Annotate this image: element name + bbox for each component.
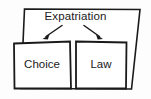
outer-container-label: Expatriation [0, 11, 151, 23]
left-box-label: Choice [14, 59, 70, 71]
right-box-label: Law [76, 59, 126, 71]
diagram-canvas: Expatriation Choice Law [0, 0, 151, 99]
